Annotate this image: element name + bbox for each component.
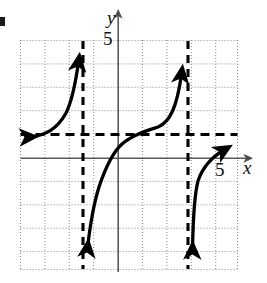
function-curves [29, 62, 224, 250]
y-axis-tick-label-5: 5 [103, 29, 113, 48]
plot-canvas [0, 0, 267, 283]
asymptote-lines [21, 41, 238, 269]
left-edge-marker [0, 17, 5, 26]
graph-figure: y x 5 5 [0, 0, 267, 283]
grid-lines [21, 40, 238, 270]
y-axis-label: y [107, 8, 115, 27]
x-axis-tick-label-5: 5 [215, 160, 225, 179]
x-axis-label: x [243, 158, 251, 177]
axes [21, 14, 249, 272]
curve-left-branch [29, 62, 79, 137]
